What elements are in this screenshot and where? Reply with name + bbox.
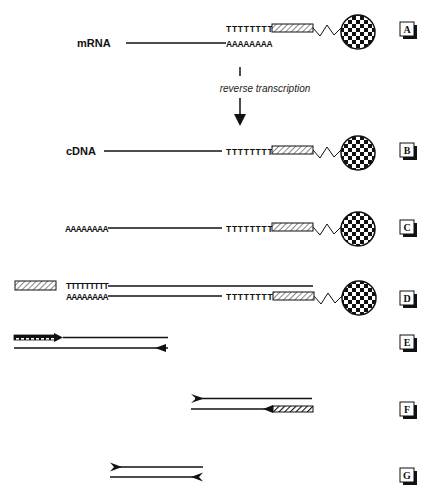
step-a-group: mRNA AAAAAAAA TTTTTTTT A <box>77 15 417 49</box>
svg-text:E: E <box>404 337 411 348</box>
oligo-dt-sequence: TTTTTTTT <box>226 24 273 34</box>
free-primer-block <box>15 281 56 290</box>
panel-label-a: A <box>400 22 417 39</box>
mrna-poly-a: AAAAAAAA <box>226 39 272 49</box>
adapter-primer-block <box>273 406 313 412</box>
panel-label-g: G <box>400 468 417 485</box>
panel-label-c: C <box>400 220 417 237</box>
svg-text:D: D <box>403 293 410 304</box>
step-e-group: E <box>14 333 417 352</box>
adapter-block <box>272 24 313 32</box>
svg-text:C: C <box>403 222 410 233</box>
magnetic-bead-icon <box>341 212 375 246</box>
panel-label-f: F <box>400 402 417 419</box>
reverse-transcription-arrow: reverse transcription <box>220 67 311 126</box>
adapter-block <box>272 223 313 231</box>
arrow-down-icon <box>234 114 246 126</box>
step-c-group: AAAAAAAA TTTTTTTT C <box>65 212 417 246</box>
open-arrow-left-icon <box>191 473 203 482</box>
step-g-group: G <box>110 463 417 486</box>
adapter-block <box>273 292 314 300</box>
step-f-group: F <box>191 394 417 419</box>
arrow-left-icon <box>155 344 166 352</box>
transition-caption: reverse transcription <box>220 83 311 94</box>
primer-dt-sequence: TTTTTTTTT <box>66 281 109 291</box>
panel-label-d: D <box>400 291 417 308</box>
step-b-group: cDNA TTTTTTTT B <box>66 136 417 170</box>
svg-text:G: G <box>403 470 411 481</box>
adapter-block <box>272 146 313 154</box>
step-d-group: TTTTTTTTT AAAAAAAA TTTTTTTT D <box>15 281 417 315</box>
panel-label-e: E <box>400 335 417 352</box>
svg-text:A: A <box>403 24 411 35</box>
open-arrow-right-icon <box>110 463 122 472</box>
mrna-label: mRNA <box>77 37 111 49</box>
diagram-canvas: mRNA AAAAAAAA TTTTTTTT A reverse transcr… <box>0 0 437 496</box>
magnetic-bead-icon <box>341 15 375 49</box>
linker-zigzag <box>314 293 342 304</box>
linker-zigzag <box>313 224 341 235</box>
primer-block <box>14 335 56 340</box>
linker-zigzag <box>313 147 341 158</box>
oligo-dt-sequence: TTTTTTTT <box>226 224 273 234</box>
linker-zigzag <box>313 25 341 36</box>
cdna-label: cDNA <box>66 145 96 157</box>
arrow-left-icon <box>263 405 273 413</box>
poly-a-tail: AAAAAAAA <box>65 224 108 234</box>
svg-text:B: B <box>404 145 411 156</box>
poly-a-tail: AAAAAAAA <box>66 292 108 302</box>
svg-text:F: F <box>404 404 410 415</box>
open-arrow-right-icon <box>191 394 204 403</box>
magnetic-bead-icon <box>342 281 376 315</box>
magnetic-bead-icon <box>341 136 375 170</box>
arrow-right-icon <box>54 333 63 342</box>
oligo-dt-sequence: TTTTTTTT <box>226 147 273 157</box>
oligo-dt-sequence: TTTTTTTT <box>226 292 273 302</box>
panel-label-b: B <box>400 143 417 160</box>
